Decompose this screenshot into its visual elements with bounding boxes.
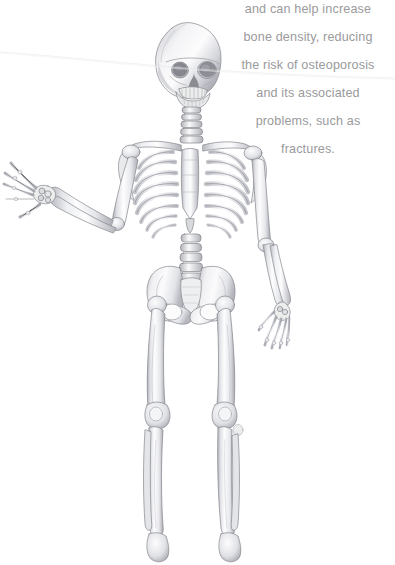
illustration-page: may reduce the risk of heart disease and… bbox=[0, 0, 395, 565]
left-leg-group bbox=[144, 308, 171, 561]
skeleton-illustration bbox=[0, 0, 395, 565]
left-arm-group bbox=[4, 157, 138, 233]
right-leg-group bbox=[212, 308, 243, 561]
cervical-spine-group bbox=[180, 107, 203, 143]
right-arm-group bbox=[252, 159, 291, 348]
sternum-group bbox=[181, 149, 198, 234]
skull-group bbox=[156, 23, 221, 109]
lumbar-spine-group bbox=[179, 234, 203, 281]
